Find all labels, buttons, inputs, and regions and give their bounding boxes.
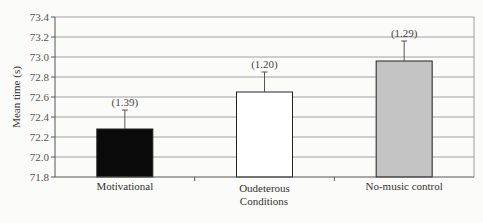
bar-motivational (97, 129, 153, 177)
y-tick-label: 73.2 (30, 31, 49, 43)
category-label: Oudeterous (239, 182, 290, 194)
bar-no-music-control (376, 61, 432, 177)
y-tick-label: 72.4 (30, 111, 50, 123)
y-tick-label: 71.8 (30, 171, 50, 183)
y-tick-label: 72.2 (30, 131, 49, 143)
x-axis-title: Conditions (240, 195, 288, 207)
error-label: (1.29) (391, 27, 418, 40)
y-axis: 71.872.072.272.472.672.873.073.273.4 (30, 11, 55, 183)
error-label: (1.20) (251, 58, 278, 71)
y-tick-label: 72.6 (30, 91, 50, 103)
y-tick-label: 73.0 (30, 51, 50, 63)
x-axis: MotivationalOudeterousNo-music control (55, 177, 474, 194)
y-axis-title: Mean time (s) (10, 66, 23, 128)
bars: (1.39)(1.20)(1.29) (97, 27, 432, 177)
bar-oudeterous (237, 92, 293, 177)
y-tick-label: 72.8 (30, 71, 50, 83)
category-label: No-music control (366, 180, 443, 192)
category-label: Motivational (96, 180, 153, 192)
y-tick-label: 73.4 (30, 11, 50, 23)
error-label: (1.39) (112, 96, 139, 109)
bar-chart: 71.872.072.272.472.672.873.073.273.4 (1.… (0, 0, 483, 223)
y-tick-label: 72.0 (30, 151, 50, 163)
